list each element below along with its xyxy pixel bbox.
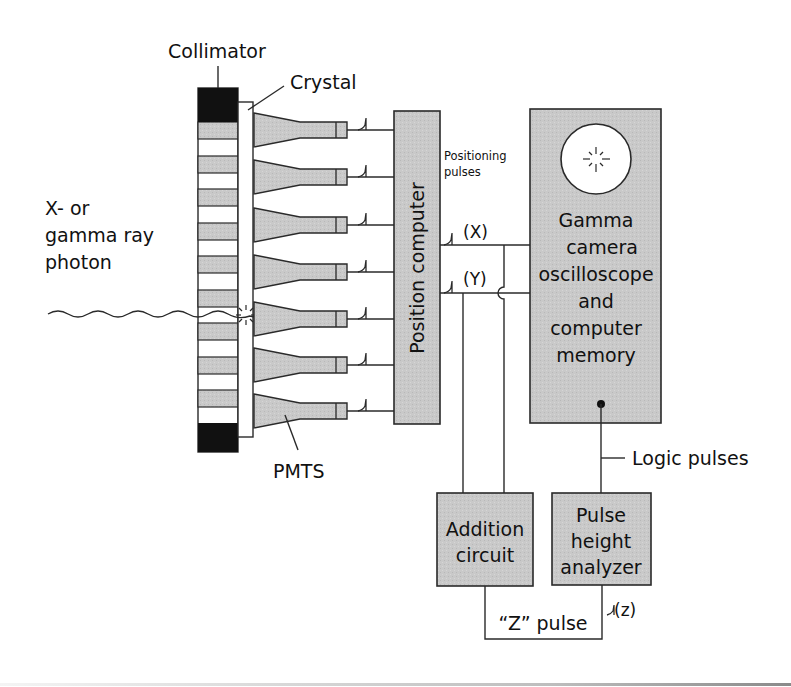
crystal xyxy=(238,102,253,437)
y-signal-label: (Y) xyxy=(463,269,487,289)
pulse-icon xyxy=(358,165,366,177)
collimator-bands xyxy=(198,122,238,407)
pmt-1 xyxy=(254,113,394,147)
collimator-label: Collimator xyxy=(168,40,266,62)
pulse-icon xyxy=(358,260,366,272)
gamma-camera-label-6: memory xyxy=(556,344,635,366)
addition-circuit-label-2: circuit xyxy=(456,544,514,566)
collimator xyxy=(198,66,238,452)
pulse-icon xyxy=(358,307,366,319)
pulse-icon xyxy=(358,213,366,225)
photon-label-1: X- or xyxy=(45,197,90,219)
z-pulse-label: “Z” pulse xyxy=(498,612,587,634)
pmts-label: PMTS xyxy=(273,460,325,482)
pulse-icon xyxy=(607,605,614,615)
gamma-camera-label-3: oscilloscope xyxy=(538,263,653,285)
pmt-4 xyxy=(254,255,394,289)
logic-pulses-label: Logic pulses xyxy=(632,447,749,469)
z-signal-label: (z) xyxy=(614,600,636,620)
gamma-camera-label-4: and xyxy=(578,290,614,312)
crystal-label: Crystal xyxy=(290,71,357,93)
bottom-rule xyxy=(0,683,791,686)
gamma-camera-diagram: Collimator Crystal X- or gamma ray photo… xyxy=(0,0,791,687)
pmt-2 xyxy=(254,160,394,194)
pulse-icon xyxy=(358,399,366,411)
pulse-icon xyxy=(358,118,366,130)
oscilloscope-screen xyxy=(561,124,631,194)
gamma-camera-label-5: computer xyxy=(550,317,642,339)
pmt-7 xyxy=(254,394,394,428)
pmt-array xyxy=(254,113,394,428)
pulse-icon xyxy=(444,233,452,245)
pha-label-1: Pulse xyxy=(576,504,626,526)
x-signal-label: (X) xyxy=(463,222,488,242)
pmt-5 xyxy=(254,302,394,336)
crystal-leader xyxy=(248,86,284,110)
pulse-icon xyxy=(358,353,366,365)
positioning-pulses-label-2: pulses xyxy=(444,165,481,179)
gamma-camera-label-1: Gamma xyxy=(558,209,633,231)
photon-label-2: gamma ray xyxy=(45,224,154,246)
pha-label-2: height xyxy=(571,530,632,552)
positioning-pulses-label-1: Positioning xyxy=(444,149,507,163)
gamma-camera-label-2: camera xyxy=(566,236,638,258)
position-computer-label: Position computer xyxy=(406,182,428,354)
collimator-top-cap xyxy=(198,88,238,122)
addition-circuit-label-1: Addition xyxy=(446,518,524,540)
photon-label-3: photon xyxy=(45,251,112,273)
pmt-6 xyxy=(254,348,394,382)
collimator-bottom-cap xyxy=(198,423,238,452)
pulse-icon xyxy=(444,281,452,293)
pmt-3 xyxy=(254,208,394,242)
pha-label-3: analyzer xyxy=(560,556,642,578)
